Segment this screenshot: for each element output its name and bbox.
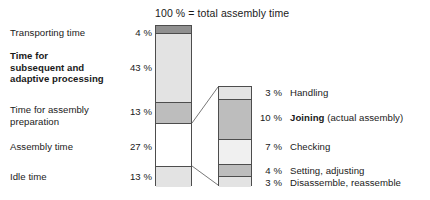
legend-label-checking: Checking [290, 141, 430, 153]
detail-segment-joining [219, 100, 251, 140]
category-percent-assembly-time: 27 % [110, 141, 152, 153]
legend-label-joining-rest: (actual assembly) [324, 112, 403, 123]
legend-label-setting-adjusting: Setting, adjusting [290, 165, 430, 177]
bar-segment-subsequent-adaptive-processing [156, 34, 191, 103]
detail-segment-setting-adjusting [219, 165, 251, 177]
legend-percent-setting-adjusting: 4 % [256, 165, 282, 177]
legend-percent-disassemble-reassemble: 3 % [256, 177, 282, 189]
category-percent-transporting-time: 4 % [110, 27, 152, 39]
category-percent-subsequent-adaptive-processing: 43 % [110, 62, 152, 74]
bar-segment-idle-time [156, 167, 191, 187]
legend-percent-joining: 10 % [256, 112, 282, 124]
legend-percent-checking: 7 % [256, 141, 282, 153]
detail-segment-checking [219, 140, 251, 165]
category-percent-idle-time: 13 % [110, 171, 152, 183]
detail-stacked-bar [218, 86, 252, 186]
legend-label-handling: Handling [290, 87, 430, 99]
main-stacked-bar [155, 25, 192, 186]
legend-label-disassemble-reassemble: Disassemble, reassemble [290, 177, 430, 189]
legend-label-joining: Joining (actual assembly) [290, 112, 430, 124]
legend-percent-handling: 3 % [256, 87, 282, 99]
legend-label-joining-bold: Joining [290, 112, 324, 123]
detail-segment-disassemble-reassemble [219, 177, 251, 187]
chart-title: 100 % = total assembly time [155, 7, 289, 19]
detail-segment-handling [219, 87, 251, 100]
category-percent-assembly-preparation: 13 % [110, 106, 152, 118]
bar-segment-assembly-time [156, 124, 191, 167]
bar-segment-assembly-preparation [156, 103, 191, 124]
bar-segment-transporting-time [156, 26, 191, 34]
